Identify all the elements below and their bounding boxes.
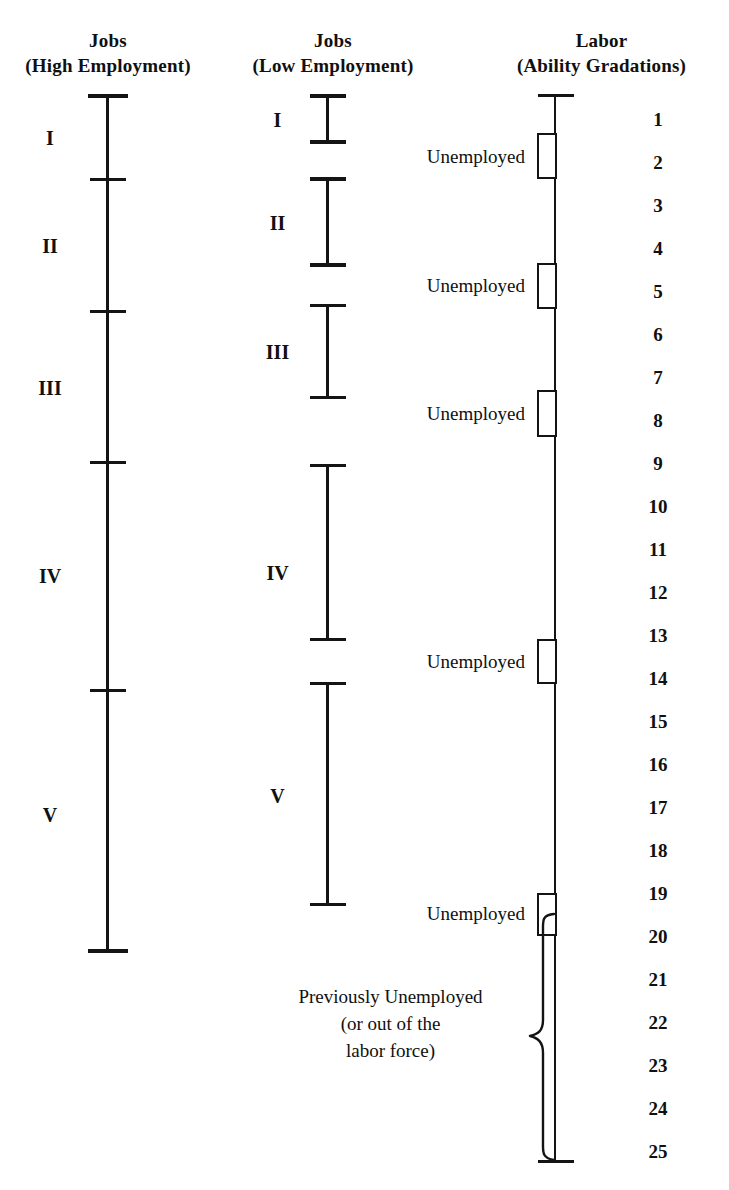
labor-gradation-20: 20 [638,927,678,946]
labor-gradation-19: 19 [638,884,678,903]
jobs-high-tick-2 [90,310,126,313]
jobs-low-segment-V-line [326,683,329,905]
labor-gradation-4: 4 [638,239,678,258]
column-header-labor: Labor (Ability Gradations) [474,28,729,78]
column-header-jobs-high: Jobs (High Employment) [0,28,216,78]
labor-gradation-18: 18 [638,841,678,860]
labor-gradation-5: 5 [638,282,678,301]
jobs-low-segment-label-III: III [250,342,305,362]
labor-unemployed-label-4: Unemployed [330,651,525,673]
jobs-low-segment-IV-bottom-cap [310,638,346,641]
jobs-high-segment-label-I: I [20,128,80,148]
column-header-line1: Jobs [89,30,127,51]
jobs-high-tick-4 [90,689,126,692]
labor-gradation-3: 3 [638,196,678,215]
jobs-low-segment-III-top-cap [310,304,346,307]
column-header-line1: Labor [576,30,628,51]
labor-gradation-13: 13 [638,626,678,645]
figure-canvas: Jobs (High Employment) Jobs (Low Employm… [0,0,729,1190]
jobs-low-segment-I-line [326,95,329,143]
column-header-line2: (Low Employment) [253,55,414,76]
labor-unemployed-bracket-4 [537,639,557,684]
labor-gradation-9: 9 [638,454,678,473]
labor-previously-unemployed-label: Previously Unemployed (or out of the lab… [258,983,523,1064]
labor-unemployed-label-1: Unemployed [330,146,525,168]
jobs-low-segment-II-top-cap [310,177,346,181]
labor-unemployed-bracket-3 [537,390,557,437]
labor-gradation-21: 21 [638,970,678,989]
labor-unemployed-label-3: Unemployed [330,403,525,425]
labor-gradation-23: 23 [638,1056,678,1075]
labor-unemployed-label-5: Unemployed [330,903,525,925]
labor-gradation-17: 17 [638,798,678,817]
jobs-high-tick-3 [90,461,126,464]
jobs-low-segment-I-bottom-cap [310,140,346,144]
jobs-low-segment-IV-top-cap [310,464,346,467]
labor-gradation-11: 11 [638,540,678,559]
jobs-low-segment-III-line [326,305,329,398]
column-header-line2: (Ability Gradations) [517,55,686,76]
jobs-high-top-cap [88,94,128,98]
jobs-low-segment-V-top-cap [310,682,346,685]
jobs-high-segment-label-IV: IV [20,566,80,586]
labor-gradation-22: 22 [638,1013,678,1032]
labor-gradation-8: 8 [638,411,678,430]
jobs-low-segment-label-I: I [250,110,305,130]
jobs-low-segment-II-line [326,178,329,266]
labor-gradation-16: 16 [638,755,678,774]
labor-unemployed-bracket-1 [537,133,557,179]
labor-gradation-1: 1 [638,110,678,129]
labor-gradation-24: 24 [638,1099,678,1118]
column-header-line1: Jobs [314,30,352,51]
jobs-high-segment-label-V: V [20,805,80,825]
labor-gradation-7: 7 [638,368,678,387]
labor-gradation-12: 12 [638,583,678,602]
jobs-low-segment-I-top-cap [310,94,346,98]
jobs-high-segment-label-II: II [20,236,80,256]
labor-gradation-14: 14 [638,669,678,688]
labor-gradation-15: 15 [638,712,678,731]
labor-unemployed-label-2: Unemployed [330,275,525,297]
jobs-high-segment-label-III: III [20,378,80,398]
labor-unemployed-bracket-2 [537,263,557,309]
labor-previously-unemployed-brace [520,912,560,1162]
jobs-high-tick-1 [90,178,126,181]
labor-gradation-25: 25 [638,1142,678,1161]
labor-gradation-10: 10 [638,497,678,516]
jobs-low-segment-II-bottom-cap [310,263,346,267]
jobs-low-segment-label-V: V [250,786,305,806]
jobs-high-bottom-cap [88,949,128,953]
jobs-low-segment-III-bottom-cap [310,396,346,399]
jobs-high-axis-line [106,95,109,953]
jobs-low-segment-IV-line [326,465,329,640]
column-header-line2: (High Employment) [25,55,190,76]
labor-top-cap [538,94,574,97]
jobs-low-segment-label-IV: IV [250,563,305,583]
jobs-low-segment-label-II: II [250,213,305,233]
labor-gradation-6: 6 [638,325,678,344]
column-header-jobs-low: Jobs (Low Employment) [225,28,441,78]
labor-gradation-2: 2 [638,153,678,172]
